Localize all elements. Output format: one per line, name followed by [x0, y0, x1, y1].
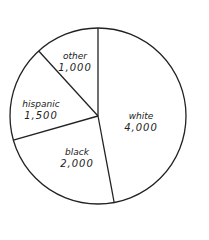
slice-label-white: white 4,000	[124, 111, 158, 133]
slice-name: white	[124, 111, 158, 122]
slice-value: 1,500	[22, 110, 59, 121]
slice-value: 2,000	[60, 158, 94, 169]
slice-name: other	[58, 51, 92, 62]
slice-label-other: other 1,000	[58, 51, 92, 73]
slice-name: black	[60, 147, 94, 158]
slice-value: 1,000	[58, 62, 92, 73]
slice-value: 4,000	[124, 122, 158, 133]
slice-name: hispanic	[22, 99, 59, 110]
slice-label-black: black 2,000	[60, 147, 94, 169]
slice-label-hispanic: hispanic 1,500	[22, 99, 59, 121]
